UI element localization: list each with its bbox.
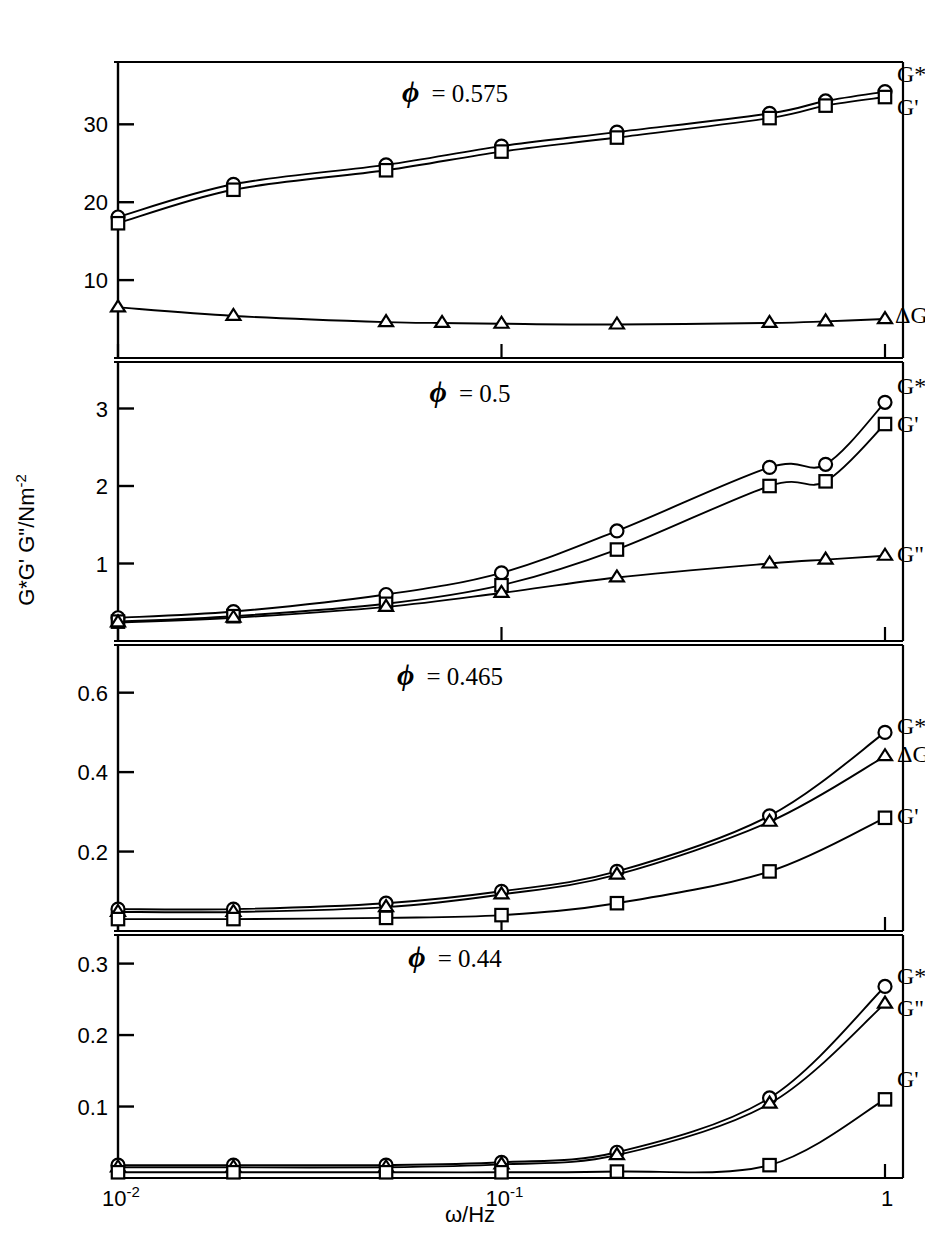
marker-triangle	[819, 553, 833, 564]
series-label-G: G'	[897, 94, 919, 120]
y-tick-label: 1	[96, 552, 108, 577]
series-label-G: ΔG"	[897, 741, 925, 767]
marker-square	[763, 112, 775, 124]
multi-panel-chart: 102030ϕ = 0.575G*G'ΔG"123ϕ = 0.5G*G'G"0.…	[0, 0, 925, 1248]
panel-title-value: = 0.5	[453, 380, 511, 407]
marker-square	[227, 184, 239, 196]
marker-circle	[879, 980, 892, 993]
marker-square	[495, 145, 507, 157]
marker-square	[380, 912, 392, 924]
marker-circle	[495, 566, 508, 579]
marker-square	[819, 475, 831, 487]
y-axis-title: G*G' G"/Nm-2	[12, 474, 39, 606]
marker-triangle	[226, 309, 240, 320]
x-tick-mantissa: 1	[881, 1186, 893, 1211]
series-label-G: G*	[897, 373, 925, 399]
marker-triangle	[610, 318, 624, 329]
y-tick-label: 0.3	[77, 952, 108, 977]
marker-triangle	[878, 749, 892, 760]
y-axis-title-exponent: -2	[12, 474, 29, 487]
marker-square	[380, 164, 392, 176]
y-tick-label: 2	[96, 474, 108, 499]
marker-triangle	[763, 557, 777, 568]
marker-square	[112, 217, 124, 229]
series-G	[112, 91, 891, 230]
marker-triangle	[435, 316, 449, 327]
x-axis-title: ω/Hz	[445, 1202, 495, 1227]
marker-square	[879, 91, 891, 103]
panel-title-value: = 0.44	[432, 945, 503, 972]
series-label-G: G'	[897, 1066, 919, 1092]
series-G	[112, 980, 892, 1172]
series-G	[111, 749, 892, 916]
series-G	[111, 997, 892, 1172]
marker-triangle	[878, 549, 892, 560]
marker-triangle	[878, 997, 892, 1008]
marker-square	[611, 543, 623, 555]
y-tick-label: 3	[96, 397, 108, 422]
series-label-G: G'	[897, 803, 919, 829]
marker-square	[112, 913, 124, 925]
series-label-G: G*	[897, 713, 925, 739]
y-tick-label: 0.2	[77, 840, 108, 865]
panel-2	[111, 645, 903, 931]
panel-3	[111, 935, 903, 1178]
x-tick-exponent: -1	[510, 1183, 523, 1200]
series-label-G: G"	[897, 995, 924, 1021]
marker-square	[763, 480, 775, 492]
marker-triangle	[610, 570, 624, 581]
series-G	[111, 300, 892, 328]
marker-square	[879, 812, 891, 824]
phi-symbol: ϕ	[402, 75, 419, 108]
series-label-G: G'	[897, 411, 919, 437]
marker-circle	[763, 461, 776, 474]
panel-title-value: = 0.465	[420, 663, 503, 690]
marker-triangle	[763, 316, 777, 327]
panel-title: ϕ = 0.44	[408, 940, 502, 973]
marker-circle	[879, 396, 892, 409]
marker-square	[227, 913, 239, 925]
marker-square	[495, 909, 507, 921]
y-tick-label: 0.1	[77, 1095, 108, 1120]
series-line	[118, 986, 885, 1165]
marker-triangle	[379, 315, 393, 326]
panel-title: ϕ = 0.575	[402, 75, 508, 108]
marker-circle	[610, 524, 623, 537]
marker-square	[879, 1093, 891, 1105]
phi-symbol: ϕ	[397, 658, 414, 691]
series-label-G: G*	[897, 963, 925, 989]
marker-square	[611, 897, 623, 909]
marker-square	[380, 1166, 392, 1178]
series-label-G: G"	[897, 541, 924, 567]
panel-title: ϕ = 0.5	[429, 375, 510, 408]
y-tick-label: 0.6	[77, 681, 108, 706]
marker-triangle	[111, 300, 125, 311]
marker-square	[763, 865, 775, 877]
marker-square	[611, 1165, 623, 1177]
marker-square	[819, 99, 831, 111]
marker-square	[879, 418, 891, 430]
marker-circle	[879, 726, 892, 739]
x-tick-label: 10-2	[102, 1183, 140, 1211]
marker-square	[611, 131, 623, 143]
phi-symbol: ϕ	[429, 375, 446, 408]
marker-triangle	[878, 312, 892, 323]
series-line	[118, 1004, 885, 1168]
marker-triangle	[495, 317, 509, 328]
x-tick-label: 1	[881, 1186, 893, 1211]
phi-symbol: ϕ	[408, 940, 425, 973]
marker-square	[495, 1166, 507, 1178]
y-axis-title-main: G*G' G"/Nm	[14, 487, 39, 605]
panel-title-value: = 0.575	[425, 80, 508, 107]
y-tick-label: 0.4	[77, 760, 108, 785]
y-tick-label: 0.2	[77, 1023, 108, 1048]
marker-circle	[819, 458, 832, 471]
series-label-G: G*	[897, 61, 925, 87]
panel-title: ϕ = 0.465	[397, 658, 503, 691]
x-tick-exponent: -2	[126, 1183, 139, 1200]
y-tick-label: 30	[84, 112, 108, 137]
marker-square	[227, 1166, 239, 1178]
x-tick-mantissa: 10	[102, 1186, 126, 1211]
marker-triangle	[819, 314, 833, 325]
series-label-G: ΔG"	[895, 302, 925, 328]
